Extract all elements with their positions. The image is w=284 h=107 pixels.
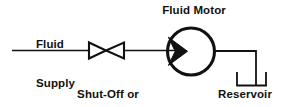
- shut-off-needle-valve-symbol: [89, 43, 124, 59]
- reservoir-tank: [237, 72, 266, 86]
- fluid-supply-label-line1: Fluid: [36, 38, 75, 51]
- reservoir-label: Reservoir: [218, 88, 272, 101]
- fluid-motor-label: Fluid Motor: [148, 4, 240, 17]
- shut-off-needle-valve-label: Shut-Off or Needle Valve: [62, 62, 154, 107]
- valve-label-line1: Shut-Off or: [62, 88, 154, 101]
- motor-flow-arrow: [168, 37, 187, 65]
- valve-right-triangle: [106, 43, 124, 59]
- fluid-motor-schematic-diagram: Fluid Supply Shut-Off or Needle Valve Fl…: [0, 0, 284, 107]
- return-line: [215, 51, 257, 86]
